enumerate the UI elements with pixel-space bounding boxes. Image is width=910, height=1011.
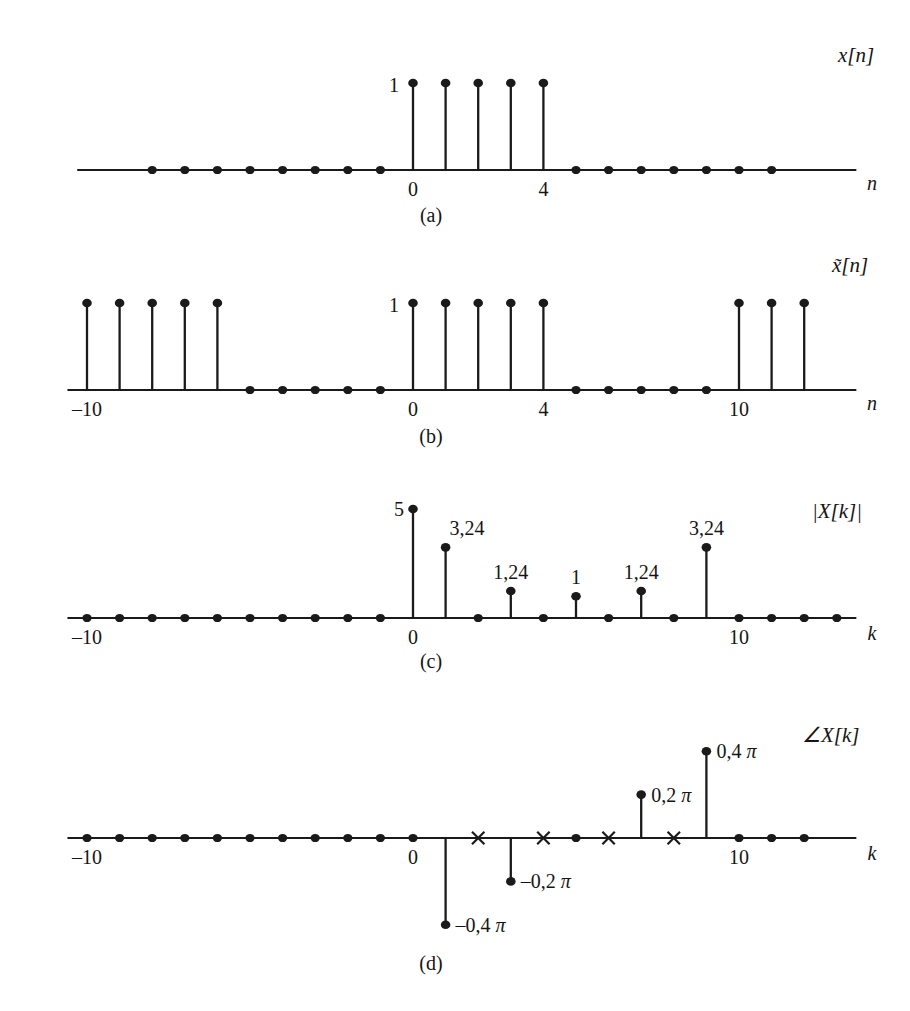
sample-dot [278,614,287,622]
stem-head-dot [571,592,581,601]
tick-label: –10 [71,846,102,868]
stem-head-dot [115,299,125,308]
tick-label: 4 [538,398,548,420]
tick-label: 0 [408,846,418,868]
tick-label: 0 [408,178,418,200]
stem-head-dot [441,299,451,308]
sample-dot [767,834,776,842]
sample-dot [571,834,580,842]
panel-b: 1–100410nx̃[n](b) [67,253,877,448]
sample-dot [474,614,483,622]
pi-symbol: π [681,784,692,806]
sample-dot [604,386,613,394]
signal-label: x̃[n] [831,253,868,277]
sample-dot [180,166,189,174]
sample-dot [213,166,222,174]
stem-head-dot [147,299,157,308]
tick-label: 0 [408,626,418,648]
tick-label: 10 [729,398,749,420]
tick-label: 10 [729,626,749,648]
panel-caption: (d) [419,952,442,975]
signal-label: |X[k]| [812,499,862,523]
tick-label: 10 [729,846,749,868]
sample-dot [408,834,417,842]
tick-label: –10 [71,626,102,648]
sample-dot [311,386,320,394]
sample-dot [311,166,320,174]
sample-dot [148,834,157,842]
value-label: 5 [394,498,404,520]
sample-dot [245,386,254,394]
tick-label: 0 [408,398,418,420]
sample-dot [343,166,352,174]
sample-dot [82,834,91,842]
panel-caption: (b) [419,425,442,448]
sample-dot [571,386,580,394]
stem-head-dot [734,299,744,308]
phase-label: –0,4 π [455,914,507,936]
sample-dot [180,614,189,622]
sample-dot [669,166,678,174]
sample-dot [343,386,352,394]
stem-head-dot [506,877,516,886]
pi-symbol: π [496,914,507,936]
signal-label: ∠X[k] [802,723,860,747]
sample-dot [767,614,776,622]
stem-head-dot [441,79,451,88]
sample-dot [734,166,743,174]
stem-head-dot [702,543,712,552]
sample-dot [800,834,809,842]
phase-label: 0,2 π [651,784,692,806]
sample-dot [539,614,548,622]
signal-label: x[n] [837,43,874,67]
axis-variable-label: k [868,842,878,864]
sample-dot [669,614,678,622]
stem-head-dot [213,299,223,308]
sample-dot [376,386,385,394]
sample-dot [343,834,352,842]
phase-label: –0,2 π [520,870,572,892]
sample-dot [376,166,385,174]
sample-dot [115,834,124,842]
panel-caption: (a) [420,204,442,227]
stem-head-dot [408,299,418,308]
stem-head-dot [473,79,483,88]
sample-dot [343,614,352,622]
amplitude-label: 1 [389,74,399,96]
sample-dot [245,614,254,622]
sample-dot [767,166,776,174]
amplitude-label: 1 [389,294,399,316]
sample-dot [376,834,385,842]
pi-symbol: π [746,740,757,762]
phase-label: 0,4 π [716,740,757,762]
sample-dot [245,166,254,174]
sample-dot [604,614,613,622]
stem-head-dot [506,587,516,596]
sample-dot [800,614,809,622]
sample-dot [734,614,743,622]
stem-head-dot [82,299,92,308]
axis-variable-label: n [867,392,877,414]
stem-head-dot [506,79,516,88]
pi-symbol: π [561,870,572,892]
sample-dot [278,834,287,842]
stem-head-dot [539,299,549,308]
value-label: 1,24 [624,561,659,583]
stem-plot-svg: 104nx[n](a)1–100410nx̃[n](b)53,241,2411,… [0,0,910,1011]
sample-dot [637,386,646,394]
stem-head-dot [441,543,451,552]
stem-head-dot [506,299,516,308]
stem-head-dot [636,790,646,799]
tick-label: 4 [538,178,548,200]
stem-head-dot [767,299,777,308]
stem-head-dot [441,921,451,930]
sample-dot [604,166,613,174]
sample-dot [115,614,124,622]
panel-d: –0,4 π–0,2 π0,2 π0,4 π–10010k∠X[k](d) [67,723,877,975]
sample-dot [702,166,711,174]
tick-label: –10 [71,398,102,420]
sample-dot [278,386,287,394]
sample-dot [278,166,287,174]
value-label: 3,24 [450,517,485,539]
sample-dot [832,614,841,622]
